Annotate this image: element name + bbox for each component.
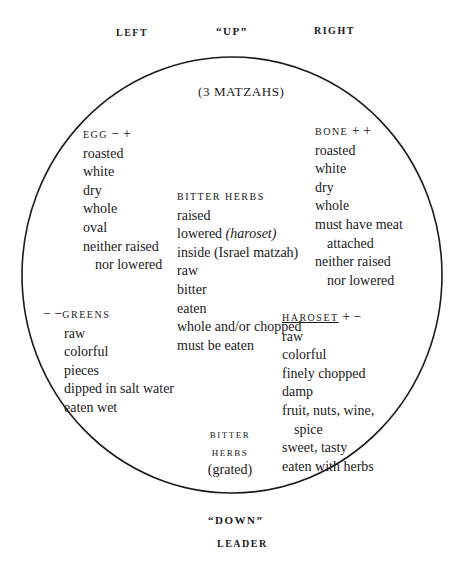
grated-line-3: (grated): [190, 462, 270, 478]
bone-item: nor lowered: [315, 272, 403, 291]
bitter-herbs-item: raw: [177, 262, 301, 281]
greens-title: GREENS: [62, 309, 110, 320]
egg-item: roasted: [83, 145, 162, 164]
bitter-herbs-item: raised: [177, 207, 301, 226]
greens-item: pieces: [64, 362, 174, 381]
bitter-herbs-item: bitter: [177, 281, 301, 300]
bone-item: whole: [315, 197, 403, 216]
bitter-herbs-item: inside (Israel matzah): [177, 244, 301, 263]
direction-left: LEFT: [116, 27, 148, 38]
bitter-herbs-grated-section: BITTER HERBS (grated): [190, 426, 270, 478]
matzahs-label: (3 MATZAHS): [198, 84, 284, 100]
direction-up: “UP”: [216, 25, 248, 37]
egg-title: EGG: [83, 129, 108, 140]
haroset-item: spice: [282, 421, 374, 440]
haroset-item: colorful: [282, 346, 374, 365]
egg-item: dry: [83, 182, 162, 201]
haroset-title: HAROSET: [282, 312, 339, 323]
bone-item: attached: [315, 235, 403, 254]
bone-item: neither raised: [315, 253, 403, 272]
egg-item: white: [83, 163, 162, 182]
bone-signs: + +: [352, 123, 371, 138]
matzahs-text: (3 MATZAHS): [198, 84, 284, 99]
haroset-item: eaten with herbs: [282, 458, 374, 477]
greens-item: colorful: [64, 343, 174, 362]
leader-label: LEADER: [217, 538, 268, 549]
bone-item: white: [315, 160, 403, 179]
direction-down: “DOWN”: [208, 514, 263, 526]
bone-item: dry: [315, 179, 403, 198]
egg-signs: − +: [112, 126, 131, 141]
greens-item: eaten wet: [64, 399, 174, 418]
egg-item: neither raised: [83, 238, 162, 257]
egg-section: EGG − + roasted white dry whole oval nei…: [83, 125, 162, 275]
egg-item: oval: [83, 219, 162, 238]
bone-title: BONE: [315, 126, 348, 137]
haroset-item: fruit, nuts, wine,: [282, 402, 374, 421]
egg-heading: EGG − +: [83, 125, 162, 145]
bone-heading: BONE + +: [315, 122, 403, 142]
bone-item: must have meat: [315, 216, 403, 235]
bone-item: roasted: [315, 142, 403, 161]
bitter-herbs-item-italic: (haroset): [226, 226, 277, 241]
haroset-item: raw: [282, 328, 374, 347]
greens-heading: − −GREENS: [43, 305, 174, 325]
haroset-item: damp: [282, 383, 374, 402]
grated-line-1: BITTER: [190, 426, 270, 444]
bitter-herbs-item: lowered (haroset): [177, 225, 301, 244]
haroset-item: finely chopped: [282, 365, 374, 384]
grated-line-2: HERBS: [190, 444, 270, 462]
haroset-signs: + −: [342, 309, 361, 324]
direction-right: RIGHT: [314, 25, 355, 36]
bitter-herbs-title: BITTER HERBS: [177, 188, 301, 207]
bitter-herbs-item-text: lowered: [177, 226, 222, 241]
haroset-heading: HAROSET + −: [282, 308, 374, 328]
haroset-section: HAROSET + − raw colorful finely chopped …: [282, 308, 374, 476]
greens-item: raw: [64, 325, 174, 344]
greens-section: − −GREENS raw colorful pieces dipped in …: [64, 305, 174, 418]
haroset-item: sweet, tasty: [282, 439, 374, 458]
greens-signs: − −: [43, 306, 62, 321]
egg-item: whole: [83, 200, 162, 219]
greens-item: dipped in salt water: [64, 380, 174, 399]
bone-section: BONE + + roasted white dry whole must ha…: [315, 122, 403, 290]
egg-item: nor lowered: [83, 256, 162, 275]
